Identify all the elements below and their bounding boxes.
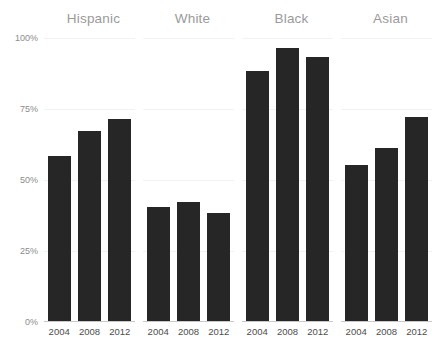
bar[interactable] xyxy=(108,119,131,321)
plot-area xyxy=(44,38,440,322)
x-tick-label: 2004 xyxy=(44,324,74,344)
panel-hispanic xyxy=(44,38,143,322)
bar-slot xyxy=(173,38,203,321)
x-tick-label: 2008 xyxy=(272,324,302,344)
bar[interactable] xyxy=(345,165,368,321)
bar-chart: Hispanic White Black Asian 100% 75% 50% … xyxy=(0,0,442,361)
facet-title-asian: Asian xyxy=(341,8,440,34)
x-axis-line xyxy=(44,321,135,322)
x-tick-label: 2012 xyxy=(303,324,333,344)
x-tick-label: 2008 xyxy=(173,324,203,344)
bar[interactable] xyxy=(78,131,101,321)
x-axis-panel: 2004 2008 2012 xyxy=(44,324,143,344)
bar[interactable] xyxy=(276,48,299,321)
y-tick-label: 100% xyxy=(15,33,38,43)
x-tick-label: 2012 xyxy=(105,324,135,344)
facet-title-hispanic: Hispanic xyxy=(44,8,143,34)
x-tick-label: 2004 xyxy=(242,324,272,344)
x-tick-label: 2012 xyxy=(204,324,234,344)
bar[interactable] xyxy=(405,117,428,321)
y-tick-label: 0% xyxy=(25,317,38,327)
bar-group xyxy=(143,38,234,321)
bar[interactable] xyxy=(207,213,230,321)
facet-title-row: Hispanic White Black Asian xyxy=(44,8,440,34)
bar-slot xyxy=(341,38,371,321)
bar[interactable] xyxy=(147,207,170,321)
x-axis-line xyxy=(341,321,432,322)
y-tick-label: 25% xyxy=(20,246,38,256)
bar-slot xyxy=(74,38,104,321)
bar[interactable] xyxy=(177,202,200,321)
y-tick-label: 50% xyxy=(20,175,38,185)
panel-white xyxy=(143,38,242,322)
x-axis-line xyxy=(242,321,333,322)
panel-black xyxy=(242,38,341,322)
y-tick-label: 75% xyxy=(20,104,38,114)
x-axis-panel: 2004 2008 2012 xyxy=(242,324,341,344)
bar-slot xyxy=(242,38,272,321)
x-axis-line xyxy=(143,321,234,322)
bar[interactable] xyxy=(306,57,329,321)
facet-title-white: White xyxy=(143,8,242,34)
bar[interactable] xyxy=(48,156,71,321)
x-tick-label: 2004 xyxy=(341,324,371,344)
bar-group xyxy=(44,38,135,321)
bar-slot xyxy=(143,38,173,321)
x-axis-panel: 2004 2008 2012 xyxy=(341,324,440,344)
x-tick-label: 2008 xyxy=(74,324,104,344)
x-tick-label: 2004 xyxy=(143,324,173,344)
x-tick-label: 2008 xyxy=(371,324,401,344)
bar-slot xyxy=(105,38,135,321)
x-tick-label: 2012 xyxy=(402,324,432,344)
bar-slot xyxy=(402,38,432,321)
bar-slot xyxy=(272,38,302,321)
bar[interactable] xyxy=(375,148,398,321)
bar[interactable] xyxy=(246,71,269,321)
x-axis: 2004 2008 2012 2004 2008 2012 2004 2008 … xyxy=(44,324,440,344)
facet-panels xyxy=(44,38,440,322)
bar-slot xyxy=(204,38,234,321)
panel-asian xyxy=(341,38,440,322)
x-axis-panel: 2004 2008 2012 xyxy=(143,324,242,344)
bar-group xyxy=(242,38,333,321)
bar-slot xyxy=(44,38,74,321)
bar-slot xyxy=(303,38,333,321)
bar-group xyxy=(341,38,432,321)
y-axis: 100% 75% 50% 25% 0% xyxy=(0,38,44,322)
facet-title-black: Black xyxy=(242,8,341,34)
bar-slot xyxy=(371,38,401,321)
